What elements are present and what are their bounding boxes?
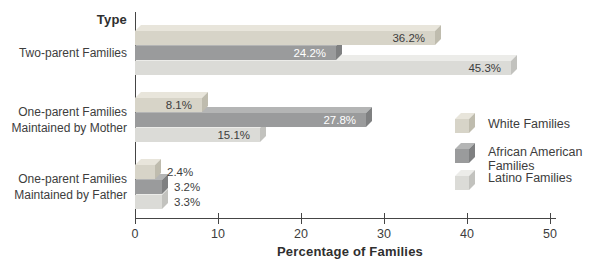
- bar-face: [135, 165, 155, 179]
- bar-chart: Type Two-parent FamiliesOne-parent Famil…: [0, 0, 591, 270]
- bar-value-label: 45.3%: [135, 61, 511, 75]
- category-label: One-parent FamiliesMaintained by Mother: [0, 104, 127, 136]
- x-tick-mark: [384, 213, 385, 224]
- category-label: One-parent FamiliesMaintained by Father: [0, 171, 127, 203]
- x-tick-mark: [550, 213, 551, 224]
- x-tick-mark: [135, 213, 136, 224]
- bar-white_families-1: 36.2%: [135, 25, 441, 45]
- legend-label: African AmericanFamilies: [488, 145, 582, 173]
- legend-cube-face: [455, 119, 469, 133]
- bar-white_families-3: 2.4%: [135, 159, 161, 179]
- bar-value-label: 24.2%: [135, 46, 336, 60]
- bar-value-label: 3.3%: [174, 195, 200, 209]
- x-tick-label: 50: [533, 227, 567, 241]
- legend-cube-face: [455, 176, 469, 190]
- bar-value-label: 36.2%: [135, 31, 435, 45]
- category-label: Two-parent Families: [0, 45, 127, 61]
- x-tick-label: 30: [367, 227, 401, 241]
- x-tick-mark: [467, 213, 468, 224]
- x-tick-label: 10: [201, 227, 235, 241]
- x-tick-label: 40: [450, 227, 484, 241]
- x-tick-label: 0: [118, 227, 152, 241]
- x-axis-line: [135, 218, 556, 219]
- x-tick-mark: [218, 213, 219, 224]
- bar-face: [135, 195, 162, 209]
- bar-value-label: 3.2%: [174, 180, 200, 194]
- bar-value-label: 2.4%: [167, 165, 193, 179]
- bar-white_families-2: 8.1%: [135, 92, 208, 112]
- legend-cube-african_american_families: [455, 143, 475, 163]
- bar-face: [135, 180, 162, 194]
- x-axis-title: Percentage of Families: [140, 244, 560, 259]
- bar-value-label: 27.8%: [135, 113, 366, 127]
- y-axis-title: Type: [0, 12, 127, 27]
- legend-cube-white_families: [455, 113, 475, 133]
- legend-label: Latino Families: [488, 171, 572, 185]
- legend-cube-face: [455, 149, 469, 163]
- x-tick-mark: [301, 213, 302, 224]
- bar-value-label: 15.1%: [135, 128, 260, 142]
- x-tick-label: 20: [284, 227, 318, 241]
- legend-cube-latino_families: [455, 170, 475, 190]
- legend-label: White Families: [488, 117, 570, 131]
- bar-value-label: 8.1%: [135, 98, 202, 112]
